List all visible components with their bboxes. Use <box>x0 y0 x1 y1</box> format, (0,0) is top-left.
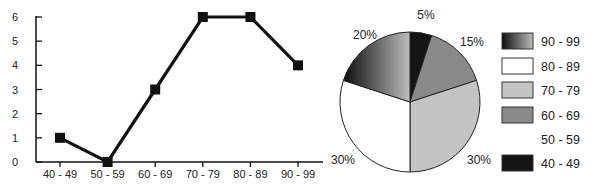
pie-percent-label: 30% <box>331 153 355 167</box>
line-chart: 0123456 40 - 4950 - 5960 - 6970 - 7980 -… <box>12 11 323 180</box>
x-tick-label: 50 - 59 <box>90 168 124 180</box>
legend-label: 80 - 89 <box>541 60 580 74</box>
pie-percent-label: 20% <box>353 28 377 42</box>
data-point-marker <box>150 85 160 95</box>
legend-swatch <box>502 33 533 49</box>
chart-canvas: 0123456 40 - 4950 - 5960 - 6970 - 7980 -… <box>0 0 595 184</box>
data-point-marker <box>198 12 208 22</box>
legend-swatch <box>502 58 533 74</box>
legend-label: 50 - 59 <box>541 133 580 147</box>
pie-percent-label: 5% <box>417 8 435 22</box>
x-tick-label: 40 - 49 <box>43 168 77 180</box>
legend-label: 90 - 99 <box>541 35 580 49</box>
y-tick-label: 6 <box>12 11 18 23</box>
y-tick-label: 0 <box>12 156 18 168</box>
y-tick-label: 1 <box>12 132 18 144</box>
legend-swatch <box>502 107 533 123</box>
legend-swatch <box>502 82 533 98</box>
data-point-marker <box>103 157 113 167</box>
y-tick-label: 3 <box>12 84 18 96</box>
legend-swatch <box>502 155 533 171</box>
y-tick-label: 2 <box>12 108 18 120</box>
data-point-marker <box>55 133 65 143</box>
y-axis: 0123456 <box>12 11 42 168</box>
legend-label: 40 - 49 <box>541 157 580 171</box>
pie-percent-label: 15% <box>460 35 484 49</box>
legend: 90 - 9980 - 8970 - 7960 - 6950 - 5940 - … <box>502 33 580 171</box>
legend-label: 60 - 69 <box>541 109 580 123</box>
x-tick-label: 60 - 69 <box>138 168 172 180</box>
data-point-marker <box>293 60 303 70</box>
legend-label: 70 - 79 <box>541 84 580 98</box>
x-tick-label: 80 - 89 <box>233 168 267 180</box>
x-tick-label: 70 - 79 <box>186 168 220 180</box>
data-line <box>60 17 298 162</box>
y-tick-label: 4 <box>12 59 18 71</box>
x-tick-label: 90 - 99 <box>281 168 315 180</box>
pie-chart: 5%15%30%30%20% <box>331 8 491 172</box>
data-point-marker <box>245 12 255 22</box>
x-axis: 40 - 4950 - 5960 - 6970 - 7980 - 8990 - … <box>36 162 323 180</box>
y-tick-label: 5 <box>12 35 18 47</box>
pie-percent-label: 30% <box>467 153 491 167</box>
